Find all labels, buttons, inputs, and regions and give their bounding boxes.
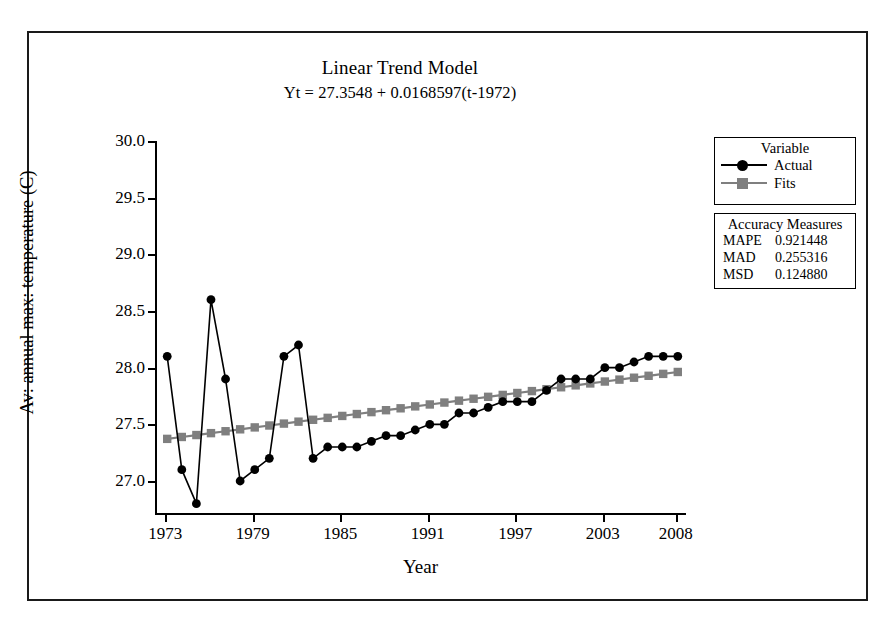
x-tick-label: 1973 <box>130 525 200 542</box>
data-point-circle <box>396 431 405 440</box>
series-line-actual <box>167 300 678 504</box>
data-point-circle <box>659 352 668 361</box>
x-tick-mark <box>676 515 678 522</box>
data-point-circle <box>615 363 624 372</box>
data-point-square <box>440 398 448 406</box>
data-point-square <box>455 396 463 404</box>
data-point-square <box>484 393 492 401</box>
data-point-square <box>323 414 331 422</box>
data-point-circle <box>177 465 186 474</box>
data-point-circle <box>528 397 537 406</box>
data-point-square <box>338 412 346 420</box>
data-point-circle <box>571 375 580 384</box>
y-tick-label: 27.5 <box>93 415 145 432</box>
y-tick-mark <box>148 311 155 313</box>
data-point-square <box>280 419 288 427</box>
accuracy-row-mape: MAPE 0.921448 <box>715 232 855 249</box>
data-point-square <box>294 417 302 425</box>
x-tick-label: 1985 <box>305 525 375 542</box>
data-point-circle <box>250 465 259 474</box>
legend-item-actual[interactable]: Actual <box>715 156 855 174</box>
y-tick-mark <box>148 254 155 256</box>
data-point-circle <box>309 454 318 463</box>
x-tick-label: 1997 <box>480 525 550 542</box>
data-point-circle <box>338 443 347 452</box>
accuracy-row-mad: MAD 0.255316 <box>715 249 855 266</box>
data-point-square <box>367 408 375 416</box>
data-point-circle <box>280 352 289 361</box>
accuracy-row-msd: MSD 0.124880 <box>715 266 855 283</box>
data-point-square <box>513 389 521 397</box>
y-tick-label: 29.5 <box>93 189 145 206</box>
data-point-square <box>221 427 229 435</box>
data-point-square <box>207 429 215 437</box>
data-point-circle <box>411 426 420 435</box>
accuracy-label-mad: MAD <box>723 249 775 266</box>
legend-label-fits: Fits <box>767 175 796 191</box>
x-tick-label: 1991 <box>393 525 463 542</box>
data-point-square <box>236 425 244 433</box>
data-point-square <box>469 395 477 403</box>
data-point-circle <box>425 420 434 429</box>
data-point-square <box>382 406 390 414</box>
data-point-circle <box>440 420 449 429</box>
data-point-square <box>674 368 682 376</box>
y-tick-label: 29.0 <box>93 245 145 262</box>
data-point-square <box>192 431 200 439</box>
accuracy-measures-box: Accuracy Measures MAPE 0.921448 MAD 0.25… <box>714 213 856 289</box>
data-point-circle <box>455 409 464 418</box>
data-point-circle <box>600 363 609 372</box>
data-point-circle <box>484 403 493 412</box>
data-point-circle <box>673 352 682 361</box>
data-point-square <box>644 372 652 380</box>
data-point-square <box>426 400 434 408</box>
accuracy-label-mape: MAPE <box>723 232 775 249</box>
data-point-square <box>178 433 186 441</box>
data-point-circle <box>207 295 216 304</box>
chart-subtitle-equation: Yt = 27.3548 + 0.0168597(t-1972) <box>120 83 680 103</box>
data-point-circle <box>265 454 274 463</box>
data-point-circle <box>630 358 639 367</box>
y-tick-mark <box>148 198 155 200</box>
data-point-square <box>630 374 638 382</box>
data-point-square <box>251 423 259 431</box>
data-point-circle <box>352 443 361 452</box>
accuracy-value-msd: 0.124880 <box>775 266 855 283</box>
data-point-circle <box>382 431 391 440</box>
x-axis-title: Year <box>155 556 686 578</box>
legend-marker-circle-icon <box>721 157 767 173</box>
x-tick-mark <box>428 515 430 522</box>
data-point-square <box>265 421 273 429</box>
data-point-circle <box>236 477 245 486</box>
data-point-circle <box>586 375 595 384</box>
legend-label-actual: Actual <box>767 157 813 173</box>
legend-item-fits[interactable]: Fits <box>715 174 855 192</box>
chart-title: Linear Trend Model <box>120 57 680 79</box>
data-point-circle <box>542 386 551 395</box>
x-tick-mark <box>253 515 255 522</box>
plot-area <box>155 141 686 515</box>
x-tick-label: 2003 <box>568 525 638 542</box>
legend-marker-square-icon <box>721 175 767 191</box>
y-tick-label: 28.0 <box>93 359 145 376</box>
y-tick-mark <box>148 481 155 483</box>
data-point-square <box>615 375 623 383</box>
data-point-square <box>396 404 404 412</box>
variable-legend-box: Variable Actual Fits <box>714 137 856 205</box>
x-tick-mark <box>515 515 517 522</box>
data-point-circle <box>294 341 303 350</box>
accuracy-heading: Accuracy Measures <box>715 214 855 232</box>
accuracy-value-mad: 0.255316 <box>775 249 855 266</box>
figure-root: Linear Trend Model Yt = 27.3548 + 0.0168… <box>0 0 889 629</box>
x-tick-mark <box>603 515 605 522</box>
y-tick-mark <box>148 368 155 370</box>
data-point-circle <box>498 397 507 406</box>
data-point-square <box>411 402 419 410</box>
data-point-circle <box>513 397 522 406</box>
data-point-square <box>309 416 317 424</box>
data-point-circle <box>644 352 653 361</box>
y-axis-title: Av: annual max: temperature (C) <box>17 113 38 473</box>
y-tick-mark <box>148 141 155 143</box>
series-actual <box>163 295 682 508</box>
data-point-circle <box>469 409 478 418</box>
